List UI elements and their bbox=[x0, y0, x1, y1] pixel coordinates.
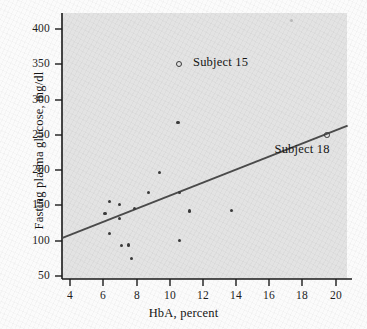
x-tick-label: 10 bbox=[158, 289, 182, 301]
x-tick-marks bbox=[70, 279, 336, 286]
data-point bbox=[127, 243, 130, 246]
subject-18-label: Subject 18 bbox=[274, 142, 329, 157]
y-tick-marks bbox=[55, 29, 62, 276]
data-point bbox=[290, 19, 293, 22]
x-tick-label: 6 bbox=[91, 289, 115, 301]
data-point bbox=[230, 209, 233, 212]
x-tick-label: 12 bbox=[191, 289, 215, 301]
data-point bbox=[188, 209, 191, 212]
scatter-plot-figure: 400 350 300 250 200 150 100 50 4 6 8 10 … bbox=[0, 0, 367, 329]
data-point bbox=[130, 257, 133, 260]
y-axis-title: Fasting plasma glucose, mg/dl bbox=[32, 26, 47, 276]
x-tick-label: 16 bbox=[257, 289, 281, 301]
x-tick-label: 14 bbox=[224, 289, 248, 301]
x-tick-label: 18 bbox=[290, 289, 314, 301]
x-tick-label: 8 bbox=[125, 289, 149, 301]
x-axis-title: HbA, percent bbox=[0, 306, 367, 321]
axes-and-data bbox=[0, 0, 367, 329]
data-point bbox=[103, 212, 106, 215]
x-tick-label: 4 bbox=[58, 289, 82, 301]
data-point bbox=[324, 132, 330, 138]
subject-15-label: Subject 15 bbox=[193, 55, 248, 70]
subject-15-marker-icon bbox=[176, 61, 182, 67]
x-tick-label: 20 bbox=[324, 289, 348, 301]
